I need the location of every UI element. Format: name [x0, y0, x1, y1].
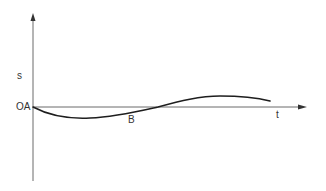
origin-label: OA: [16, 102, 30, 112]
point-b-label: B: [128, 115, 135, 125]
t-axis-label: t: [276, 110, 279, 120]
s-axis-arrowhead-icon: [31, 13, 36, 21]
t-axis-arrowhead-icon: [298, 105, 307, 110]
displacement-time-diagram: [0, 0, 326, 191]
s-axis-label: s: [17, 71, 22, 81]
